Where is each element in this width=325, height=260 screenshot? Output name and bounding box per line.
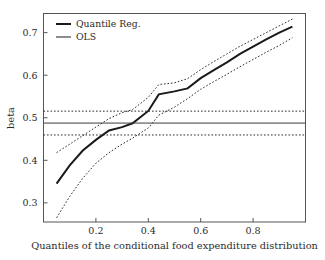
y-tick-label: 0.3 bbox=[22, 197, 37, 208]
x-tick-label: 0.6 bbox=[193, 225, 208, 236]
chart-legend: Quantile Reg.OLS bbox=[51, 15, 164, 46]
y-tick-label: 0.7 bbox=[22, 27, 37, 38]
x-axis-tick-labels: 0.20.40.60.8 bbox=[88, 225, 260, 236]
chart-figure: 0.20.40.60.8 0.30.40.50.60.7 Quantiles o… bbox=[0, 0, 325, 260]
y-axis-tick-labels: 0.30.40.50.60.7 bbox=[22, 27, 37, 208]
legend-label: Quantile Reg. bbox=[76, 18, 141, 29]
quantile-regression-chart: 0.20.40.60.8 0.30.40.50.60.7 Quantiles o… bbox=[0, 0, 325, 260]
x-tick-label: 0.8 bbox=[246, 225, 261, 236]
x-tick-label: 0.2 bbox=[88, 225, 103, 236]
y-axis-label: beta bbox=[5, 107, 16, 129]
y-tick-label: 0.5 bbox=[22, 112, 37, 123]
x-axis-label: Quantiles of the conditional food expend… bbox=[31, 240, 318, 251]
y-tick-label: 0.6 bbox=[22, 70, 37, 81]
x-tick-label: 0.4 bbox=[141, 225, 156, 236]
y-tick-label: 0.4 bbox=[22, 155, 37, 166]
legend-label: OLS bbox=[76, 31, 96, 42]
